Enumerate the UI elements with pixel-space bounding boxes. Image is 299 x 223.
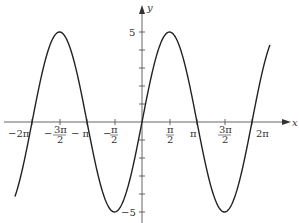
x-axis-label: x (292, 117, 298, 128)
y-tick-label-neg5: −5 (121, 207, 136, 218)
x-tick-label-neg-pi2-den: 2 (111, 134, 117, 145)
x-tick-label-neg-pi: − π (71, 128, 90, 139)
x-tick-label-pi: π (190, 128, 197, 139)
x-tick-label-3pi2-den: 2 (222, 134, 228, 145)
x-tick-label-neg-2pi: −2π (8, 128, 30, 139)
y-axis-label: y (146, 2, 153, 13)
x-tick-label-2pi: 2π (256, 128, 269, 139)
y-tick-label-5: 5 (129, 27, 135, 38)
y-axis-arrow-icon (139, 5, 145, 14)
x-axis-arrow-icon (282, 119, 291, 125)
x-tick-label-neg-3pi2-den: 2 (57, 134, 63, 145)
sine-chart: y x 5 −5 −2π − 3π 2 − π − π 2 π 2 π 3π 2… (0, 0, 299, 223)
x-tick-label-pi2-den: 2 (167, 134, 173, 145)
x-tick-label-neg-3pi2-minus: − (44, 128, 52, 139)
